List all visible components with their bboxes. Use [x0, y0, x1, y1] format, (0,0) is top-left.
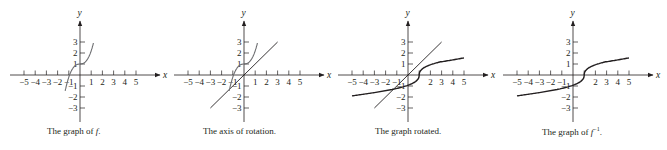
x-tick-label: 2 [100, 77, 105, 87]
y-tick-label: −3 [68, 103, 78, 113]
x-tick-label: 5 [134, 77, 139, 87]
y-tick-label: 1 [401, 59, 406, 69]
y-axis-label: y [405, 8, 411, 18]
y-tick-label: −2 [232, 92, 242, 102]
x-tick-label: −4 [523, 77, 533, 87]
x-tick-label: −3 [370, 77, 380, 87]
panel-graph-of-f: xy−5−4−3−2−112345321−1−2−3 [10, 8, 168, 122]
y-tick-label: 3 [73, 37, 78, 47]
x-tick-label: −3 [206, 77, 216, 87]
x-tick-label: −2 [53, 77, 63, 87]
x-tick-label: 4 [287, 77, 292, 87]
y-tick-label: −2 [68, 92, 78, 102]
x-tick-label: −3 [535, 77, 545, 87]
x-tick-label: 4 [616, 77, 621, 87]
y-tick-label: 3 [566, 37, 571, 47]
y-axis-label: y [570, 8, 576, 18]
x-tick-label: −5 [512, 77, 522, 87]
x-tick-label: −4 [358, 77, 368, 87]
x-tick-label: 1 [89, 77, 94, 87]
y-tick-label: −3 [396, 103, 406, 113]
x-tick-label: −4 [194, 77, 204, 87]
caption-graph-of-f-inverse: The graph of f−1. [542, 126, 622, 137]
y-tick-label: 2 [73, 48, 78, 58]
x-tick-label: −4 [30, 77, 40, 87]
x-tick-label: 5 [627, 77, 632, 87]
y-axis-label: y [241, 8, 247, 18]
x-tick-label: 3 [275, 77, 280, 87]
x-tick-label: 4 [123, 77, 128, 87]
x-tick-label: 4 [451, 77, 456, 87]
y-tick-label: −3 [561, 103, 571, 113]
panel-graph-rotated: xy−5−4−3−2−12345321−1−2−3 [338, 8, 496, 122]
y-tick-label: −2 [396, 92, 406, 102]
x-tick-label: −2 [546, 77, 556, 87]
x-tick-label: 2 [428, 77, 433, 87]
y-tick-label: 1 [566, 59, 571, 69]
x-tick-label: 5 [298, 77, 303, 87]
x-tick-label: 2 [593, 77, 598, 87]
x-axis-label: x [490, 70, 496, 80]
x-tick-label: −5 [183, 77, 193, 87]
y-axis-label: y [77, 8, 83, 18]
x-axis-label: x [162, 70, 168, 80]
x-tick-label: 3 [604, 77, 609, 87]
x-tick-label: −2 [381, 77, 391, 87]
y-tick-label: −2 [561, 92, 571, 102]
panel-graph-of-f-inverse: xy−5−4−3−2−12345321−1−2−3 [503, 8, 661, 122]
x-tick-label: −5 [19, 77, 29, 87]
y-tick-label: −3 [232, 103, 242, 113]
x-tick-label: 3 [439, 77, 444, 87]
y-tick-label: 2 [566, 48, 571, 58]
x-tick-label: −5 [347, 77, 357, 87]
y-tick-label: 3 [401, 37, 406, 47]
caption-graph-rotated: The graph rotated. [375, 126, 455, 136]
x-tick-label: 5 [462, 77, 467, 87]
x-axis-label: x [326, 70, 332, 80]
x-tick-label: −2 [217, 77, 227, 87]
x-tick-label: 2 [264, 77, 269, 87]
x-tick-label: −3 [42, 77, 52, 87]
y-tick-label: −1 [68, 81, 78, 91]
caption-graph-of-f: The graph of f. [47, 126, 117, 136]
y-tick-label: 2 [237, 48, 242, 58]
x-axis-label: x [655, 70, 661, 80]
panel-axis-of-rotation: xy−5−4−3−2−112345321−1−2−3 [174, 8, 332, 122]
x-tick-label: 3 [111, 77, 116, 87]
y-tick-label: 2 [401, 48, 406, 58]
x-tick-label: 1 [253, 77, 258, 87]
caption-axis-of-rotation: The axis of rotation. [203, 126, 293, 136]
y-tick-label: 3 [237, 37, 242, 47]
